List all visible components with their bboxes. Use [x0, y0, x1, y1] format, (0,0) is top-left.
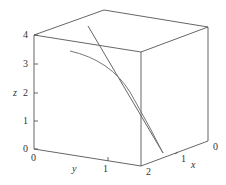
z-tick-1: 1 [23, 116, 28, 126]
y-axis-line [34, 149, 141, 166]
x-tick-1: 1 [181, 154, 186, 164]
x-axis-label: x [191, 160, 195, 170]
y-axis-label: y [72, 164, 76, 174]
z-tick-3: 3 [23, 59, 28, 69]
top-back-right-edge [104, 10, 208, 27]
y-tick-1: 1 [103, 164, 108, 174]
curve-series [70, 51, 163, 153]
z-tick-2: 2 [23, 88, 28, 98]
top-back-left-edge [34, 10, 104, 35]
z-tick-0: 0 [23, 144, 28, 154]
z-axis-label: z [13, 88, 17, 98]
top-front-left-edge [34, 35, 141, 52]
x-tick-2: 2 [146, 167, 151, 177]
top-front-right-edge [141, 27, 208, 52]
x-tick-0: 0 [213, 142, 218, 152]
y-tick-0: 0 [31, 153, 36, 163]
straight-line-series [88, 26, 163, 153]
z-tick-4: 4 [23, 30, 28, 40]
x-axis-line [141, 141, 208, 166]
box-frame [34, 10, 208, 166]
